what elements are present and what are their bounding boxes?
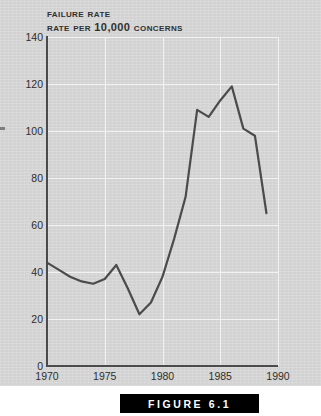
figure-caption-label: FIGURE 6.1 [120,394,259,413]
figure-caption-bar: FIGURE 6.1 [120,394,259,413]
failure-rate-line-chart [0,0,321,386]
figure-panel: Failure Rate Rate per 10,000 concerns 02… [0,0,321,386]
failure-rate-series-line [47,86,266,314]
